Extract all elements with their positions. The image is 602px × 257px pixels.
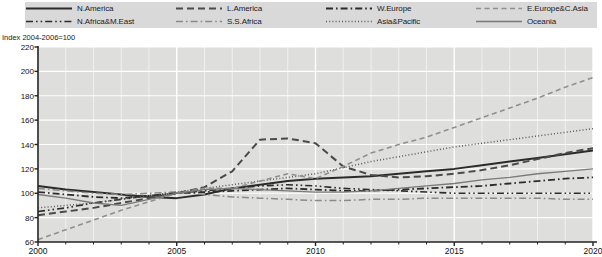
legend-line-icon <box>25 17 73 26</box>
legend-label: L.America <box>227 4 262 13</box>
x-tick-label: 2010 <box>306 246 325 256</box>
legend-line-icon <box>25 4 73 13</box>
legend-label: Oceania <box>527 17 556 26</box>
legend-item-oceania[interactable]: Oceania <box>475 15 597 28</box>
legend-item-e-europe-c-asia[interactable]: E.Europe&C.Asia <box>475 2 597 15</box>
legend-item-n-america[interactable]: N.America <box>25 2 175 15</box>
legend-label: E.Europe&C.Asia <box>527 4 588 13</box>
x-tick-label: 2005 <box>167 246 186 256</box>
legend-label: N.America <box>77 4 113 13</box>
x-tick-label: 2020 <box>584 246 602 256</box>
y-axis-title: Index 2004-2006=100 <box>2 33 75 42</box>
legend-label: N.Africa&M.East <box>77 17 134 26</box>
legend-label: W.Europe <box>377 4 411 13</box>
chart-legend: N.AmericaN.Africa&M.EastL.AmericaS.S.Afr… <box>25 2 597 28</box>
legend-label: S.S.Africa <box>227 17 262 26</box>
x-tick-label: 2000 <box>29 246 48 256</box>
x-axis-ticks: 20002005201020152020 <box>0 42 597 257</box>
legend-label: Asia&Pacific <box>377 17 420 26</box>
legend-line-icon <box>475 17 523 26</box>
plot-wrapper: 6080100120140160180200220 20002005201020… <box>0 42 597 257</box>
legend-item-s-s-africa[interactable]: S.S.Africa <box>175 15 325 28</box>
legend-items: N.AmericaN.Africa&M.EastL.AmericaS.S.Afr… <box>25 2 597 28</box>
legend-item-n-africa-m-east[interactable]: N.Africa&M.East <box>25 15 175 28</box>
legend-item-asia-pacific[interactable]: Asia&Pacific <box>325 15 475 28</box>
legend-line-icon <box>325 4 373 13</box>
legend-line-icon <box>475 4 523 13</box>
legend-line-icon <box>325 17 373 26</box>
legend-item-w-europe[interactable]: W.Europe <box>325 2 475 15</box>
x-tick-label: 2015 <box>445 246 464 256</box>
legend-line-icon <box>175 4 223 13</box>
legend-line-icon <box>175 17 223 26</box>
legend-item-l-america[interactable]: L.America <box>175 2 325 15</box>
